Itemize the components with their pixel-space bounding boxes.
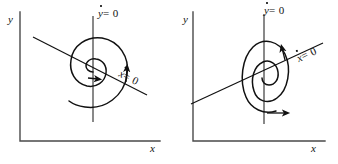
panel-right-stable-spiral: y x y= 0 x= 0 <box>169 0 338 164</box>
ydot-symbol: y <box>98 8 103 19</box>
y-axis-label: y <box>183 14 188 25</box>
x-axis-label: x <box>311 143 316 154</box>
panel-right-drawing <box>169 0 338 164</box>
ydot-zero-label: y= 0 <box>264 5 285 16</box>
axes-frame <box>193 12 325 141</box>
x-axis-label: x <box>150 143 155 154</box>
ydot-zero-equation: = 0 <box>103 7 119 19</box>
ydot-symbol: y <box>264 5 269 16</box>
y-axis-label: y <box>8 14 13 25</box>
panel-left-drawing <box>0 0 169 164</box>
phase-plane-figure: y x y= 0 x= 0 <box>0 0 338 164</box>
ydot-zero-equation: = 0 <box>269 4 285 16</box>
panel-left-unstable-spiral: y x y= 0 x= 0 <box>0 0 169 164</box>
inner-flow-arrow <box>88 78 98 79</box>
ydot-zero-label: y= 0 <box>98 8 119 19</box>
